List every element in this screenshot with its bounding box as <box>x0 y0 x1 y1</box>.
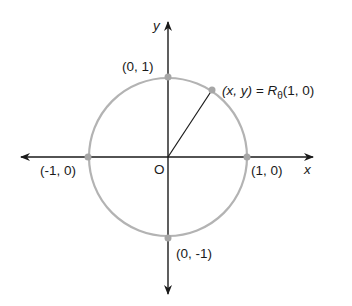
x-axis-label: x <box>303 162 312 177</box>
y-axis-label: y <box>152 18 161 33</box>
point-right <box>244 154 251 161</box>
origin-label: O <box>154 162 165 177</box>
point-bottom <box>165 235 172 242</box>
rotated-rhs: (1, 0) <box>283 83 315 98</box>
unit-circle-diagram: y x O (0, 1) (1, 0) (-1, 0) (0, -1) (x, … <box>0 0 352 306</box>
radius-line <box>168 90 212 157</box>
label-bottom: (0, -1) <box>176 246 212 261</box>
rotation-operator: R <box>267 83 277 98</box>
label-top: (0, 1) <box>122 59 154 74</box>
label-right: (1, 0) <box>251 163 283 178</box>
point-top <box>165 74 172 81</box>
point-left <box>85 154 92 161</box>
label-rotated: (x, y) = Rθ(1, 0) <box>222 83 314 101</box>
rotated-lhs: (x, y) = <box>222 83 267 98</box>
point-rotated <box>209 87 216 94</box>
label-left: (-1, 0) <box>40 163 76 178</box>
